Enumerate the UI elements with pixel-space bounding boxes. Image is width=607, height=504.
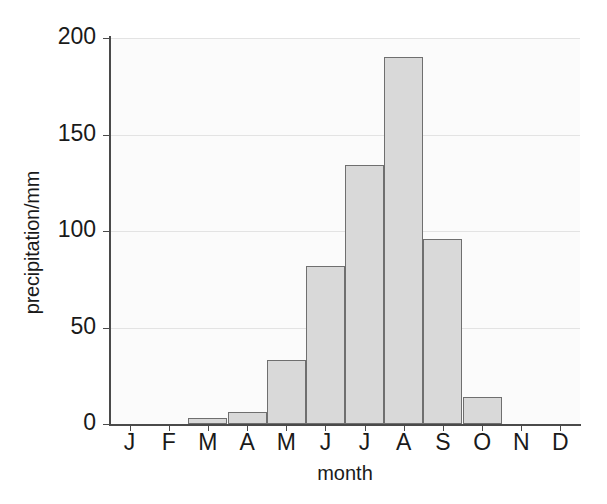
x-tick-label-september: S xyxy=(423,430,463,454)
plot-area xyxy=(110,38,580,424)
bar-september xyxy=(423,239,462,424)
x-tick-label-january: J xyxy=(110,430,150,454)
x-tick-label-august: A xyxy=(384,430,424,454)
x-axis-title: month xyxy=(110,462,580,485)
y-tick-mark xyxy=(103,231,110,232)
y-tick-mark xyxy=(103,424,110,425)
bar-october xyxy=(463,397,502,424)
x-tick-label-july: J xyxy=(345,430,385,454)
x-tick-label-april: A xyxy=(227,430,267,454)
bar-june xyxy=(306,266,345,424)
x-tick-label-may: M xyxy=(266,430,306,454)
x-tick-label-march: M xyxy=(188,430,228,454)
y-tick-mark xyxy=(103,135,110,136)
y-tick-label: 150 xyxy=(30,122,96,145)
bar-april xyxy=(228,412,267,424)
y-tick-mark xyxy=(103,328,110,329)
x-tick-label-june: J xyxy=(305,430,345,454)
gridline xyxy=(110,135,580,136)
gridline xyxy=(110,38,580,39)
x-axis-line xyxy=(109,424,581,426)
precipitation-bar-chart: precipitation/mm month 050100150200 JFMA… xyxy=(0,0,607,504)
y-tick-label: 0 xyxy=(30,411,96,434)
bar-may xyxy=(267,360,306,424)
bar-august xyxy=(384,57,423,424)
y-tick-label: 200 xyxy=(30,25,96,48)
y-tick-label: 100 xyxy=(30,218,96,241)
y-tick-mark xyxy=(103,38,110,39)
x-tick-label-december: D xyxy=(540,430,580,454)
x-tick-label-february: F xyxy=(149,430,189,454)
x-tick-label-october: O xyxy=(462,430,502,454)
y-tick-label: 50 xyxy=(30,315,96,338)
bar-july xyxy=(345,165,384,424)
x-tick-label-november: N xyxy=(501,430,541,454)
